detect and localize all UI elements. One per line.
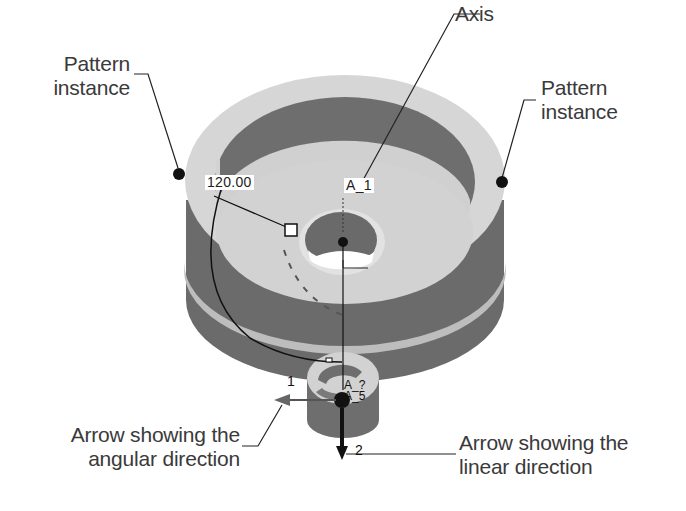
- direction-1-label: 1: [287, 374, 295, 389]
- callout-axis-text: Axis: [455, 2, 494, 25]
- axis-label-a1: A_1: [344, 178, 374, 193]
- direction-2-label: 2: [355, 443, 363, 458]
- callout-angular-arrow: Arrow showing the angular direction: [20, 423, 240, 471]
- angular-direction-arrowhead[interactable]: [274, 394, 290, 406]
- callout-line-1: Pattern: [20, 52, 130, 76]
- callout-line-1: Pattern: [541, 76, 618, 100]
- callout-line-2: instance: [20, 76, 130, 100]
- callout-line-2: angular direction: [20, 447, 240, 471]
- axis-point: [338, 237, 348, 247]
- pattern-instance-dot-left: [173, 168, 185, 180]
- callout-line-1: Arrow showing the: [20, 423, 240, 447]
- callout-line-1: Arrow showing the: [459, 431, 628, 455]
- small-handle[interactable]: [326, 358, 332, 362]
- pattern-instance-dot-right: [496, 176, 508, 188]
- linear-direction-arrowhead[interactable]: [336, 446, 348, 460]
- callout-axis: Axis: [455, 2, 494, 26]
- main-cylinder: [184, 75, 506, 382]
- angle-dimension-value[interactable]: 120.00: [205, 175, 254, 190]
- callout-line-2: linear direction: [459, 455, 628, 479]
- callout-line-2: instance: [541, 100, 618, 124]
- callout-linear-arrow: Arrow showing the linear direction: [459, 431, 628, 479]
- callout-pattern-instance-left: Pattern instance: [20, 52, 130, 100]
- feature-axis-label-bottom: A_5: [344, 390, 365, 402]
- drag-handle-square[interactable]: [285, 224, 297, 236]
- callout-pattern-instance-right: Pattern instance: [541, 76, 618, 124]
